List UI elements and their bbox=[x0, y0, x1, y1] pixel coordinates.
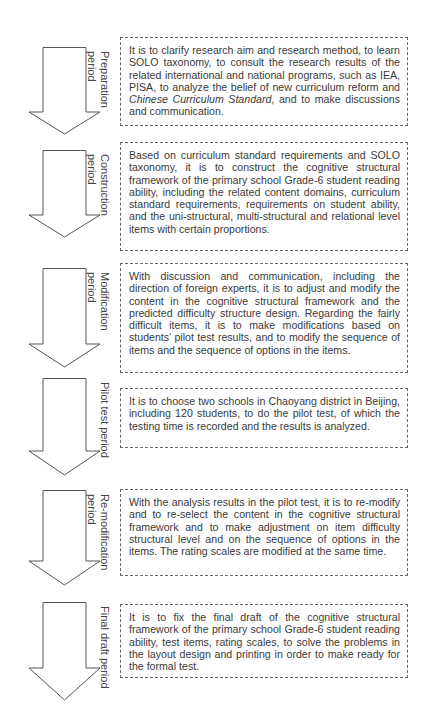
step-label: Pilot test period bbox=[75, 382, 111, 458]
text-segment: Based on curriculum standard requirement… bbox=[129, 149, 400, 235]
text-segment: It is to fix the final draft of the cogn… bbox=[129, 611, 400, 672]
text-segment: It is to clarify research aim and resear… bbox=[129, 44, 400, 93]
step-label: Construction period bbox=[75, 154, 111, 216]
step-label: Final draft period bbox=[75, 606, 111, 689]
step-description-box: Based on curriculum standard requirement… bbox=[120, 142, 408, 251]
down-arrow-step-6: Final draft period bbox=[28, 602, 102, 700]
step-description-box: It is to choose two schools in Chaoyang … bbox=[120, 388, 408, 448]
step-description-text: It is to clarify research aim and resear… bbox=[129, 44, 400, 118]
step-description-box: It is to fix the final draft of the cogn… bbox=[120, 604, 408, 678]
step-description-box: It is to clarify research aim and resear… bbox=[120, 37, 408, 126]
down-arrow-step-4: Pilot test period bbox=[28, 378, 102, 475]
italic-title-text: Chinese Curriculum Standard bbox=[129, 93, 271, 105]
text-segment: With the analysis results in the pilot t… bbox=[129, 496, 400, 557]
step-description-text: Based on curriculum standard requirement… bbox=[129, 149, 400, 235]
text-segment: With discussion and communication, inclu… bbox=[129, 270, 400, 356]
step-description-box: With discussion and communication, inclu… bbox=[120, 263, 408, 373]
step-label: Re-modification period bbox=[75, 494, 111, 570]
step-description-text: It is to fix the final draft of the cogn… bbox=[129, 611, 400, 672]
step-description-text: With discussion and communication, inclu… bbox=[129, 270, 400, 356]
step-description-box: With the analysis results in the pilot t… bbox=[120, 489, 408, 576]
down-arrow-step-3: Modification period bbox=[28, 268, 102, 367]
text-segment: It is to choose two schools in Chaoyang … bbox=[129, 395, 400, 432]
step-description-text: It is to choose two schools in Chaoyang … bbox=[129, 395, 400, 432]
step-label: Preparation period bbox=[75, 51, 111, 108]
down-arrow-step-2: Construction period bbox=[28, 150, 102, 237]
step-label: Modification period bbox=[75, 272, 111, 331]
down-arrow-step-5: Re-modification period bbox=[28, 490, 102, 585]
down-arrow-step-1: Preparation period bbox=[28, 47, 102, 134]
step-description-text: With the analysis results in the pilot t… bbox=[129, 496, 400, 557]
